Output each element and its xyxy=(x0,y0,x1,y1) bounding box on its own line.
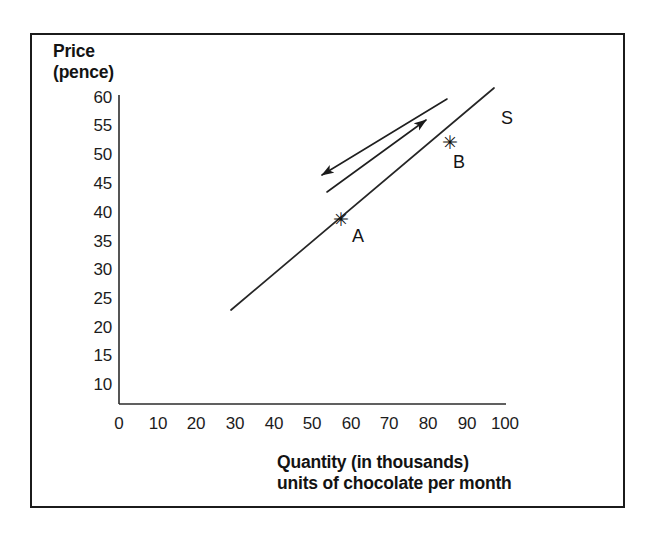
supply-curve-line xyxy=(231,88,494,310)
plot-drawing xyxy=(0,0,650,545)
point-label-b: B xyxy=(453,152,465,173)
point-marker-b: ✳ xyxy=(442,133,458,152)
supply-curve-label: S xyxy=(501,108,513,129)
point-marker-a: ✳ xyxy=(333,210,349,229)
figure-root: Price (pence) Quantity (in thousands) un… xyxy=(0,0,650,545)
point-label-a: A xyxy=(352,226,364,247)
shift-right-arrow xyxy=(327,120,426,192)
shift-left-arrow xyxy=(322,99,447,175)
